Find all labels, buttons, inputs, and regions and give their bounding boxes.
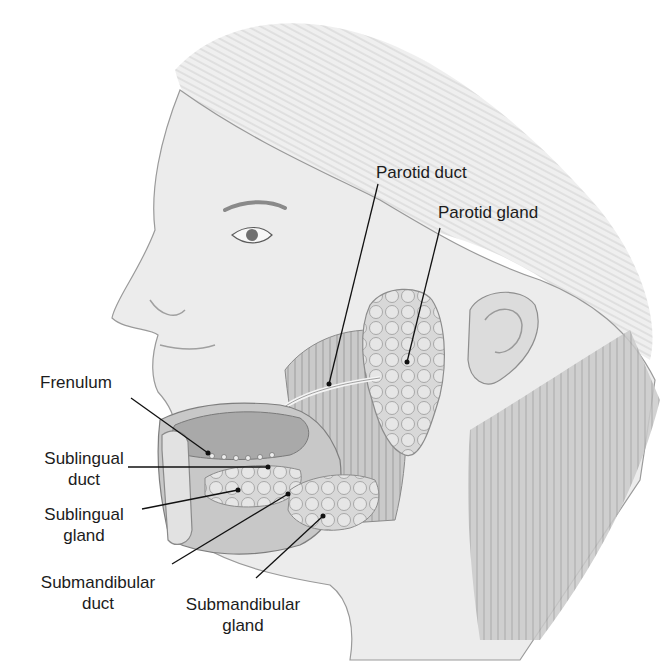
label-frenulum: Frenulum (40, 372, 112, 393)
label-submandibular-gland: Submandibular gland (173, 594, 313, 636)
label-parotid-duct: Parotid duct (376, 162, 467, 183)
tongue (172, 412, 308, 460)
label-sublingual-duct: Sublingual duct (36, 448, 132, 490)
label-parotid-gland: Parotid gland (438, 202, 538, 223)
label-sublingual-gland: Sublingual gland (36, 504, 132, 546)
label-submandibular-duct: Submandibular duct (28, 572, 168, 614)
anatomy-illustration (0, 0, 671, 667)
